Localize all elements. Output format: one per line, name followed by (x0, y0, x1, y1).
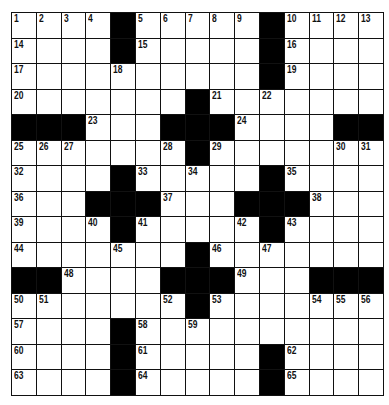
grid-cell[interactable] (111, 294, 135, 319)
grid-cell[interactable] (62, 319, 86, 344)
grid-cell[interactable]: 5 (136, 13, 160, 38)
grid-cell[interactable] (210, 64, 234, 89)
grid-cell[interactable] (111, 141, 135, 166)
grid-cell[interactable] (62, 64, 86, 89)
grid-cell[interactable]: 38 (310, 192, 334, 217)
grid-cell[interactable]: 23 (86, 115, 110, 140)
grid-cell[interactable] (235, 345, 259, 370)
grid-cell[interactable] (285, 141, 309, 166)
grid-cell[interactable]: 53 (210, 294, 234, 319)
grid-cell[interactable]: 48 (62, 268, 86, 293)
grid-cell[interactable]: 12 (334, 13, 358, 38)
grid-cell[interactable] (37, 319, 61, 344)
grid-cell[interactable]: 26 (37, 141, 61, 166)
grid-cell[interactable] (310, 217, 334, 242)
grid-cell[interactable] (86, 90, 110, 115)
grid-cell[interactable] (161, 217, 185, 242)
grid-cell[interactable]: 60 (12, 345, 36, 370)
grid-cell[interactable] (186, 64, 210, 89)
grid-cell[interactable] (161, 370, 185, 395)
grid-cell[interactable] (235, 294, 259, 319)
grid-cell[interactable]: 30 (334, 141, 358, 166)
grid-cell[interactable]: 9 (235, 13, 259, 38)
grid-cell[interactable] (210, 345, 234, 370)
grid-cell[interactable] (260, 141, 284, 166)
grid-cell[interactable]: 28 (161, 141, 185, 166)
grid-cell[interactable] (210, 39, 234, 64)
grid-cell[interactable] (186, 345, 210, 370)
grid-cell[interactable] (62, 370, 86, 395)
grid-cell[interactable] (285, 243, 309, 268)
grid-cell[interactable]: 15 (136, 39, 160, 64)
grid-cell[interactable]: 47 (260, 243, 284, 268)
grid-cell[interactable] (86, 64, 110, 89)
grid-cell[interactable] (260, 115, 284, 140)
grid-cell[interactable] (161, 64, 185, 89)
grid-cell[interactable] (210, 319, 234, 344)
grid-cell[interactable] (186, 39, 210, 64)
grid-cell[interactable] (359, 192, 383, 217)
grid-cell[interactable] (86, 294, 110, 319)
grid-cell[interactable] (310, 166, 334, 191)
grid-cell[interactable]: 58 (136, 319, 160, 344)
grid-cell[interactable] (86, 319, 110, 344)
grid-cell[interactable] (285, 319, 309, 344)
grid-cell[interactable] (285, 115, 309, 140)
grid-cell[interactable] (37, 90, 61, 115)
grid-cell[interactable] (86, 268, 110, 293)
grid-cell[interactable]: 54 (310, 294, 334, 319)
grid-cell[interactable]: 61 (136, 345, 160, 370)
grid-cell[interactable] (136, 243, 160, 268)
grid-cell[interactable]: 6 (161, 13, 185, 38)
grid-cell[interactable] (235, 370, 259, 395)
grid-cell[interactable] (37, 370, 61, 395)
grid-cell[interactable] (235, 39, 259, 64)
grid-cell[interactable] (186, 217, 210, 242)
grid-cell[interactable] (210, 370, 234, 395)
grid-cell[interactable] (62, 192, 86, 217)
grid-cell[interactable] (310, 90, 334, 115)
grid-cell[interactable]: 20 (12, 90, 36, 115)
grid-cell[interactable]: 33 (136, 166, 160, 191)
grid-cell[interactable]: 63 (12, 370, 36, 395)
grid-cell[interactable]: 35 (285, 166, 309, 191)
grid-cell[interactable] (136, 268, 160, 293)
grid-cell[interactable] (310, 319, 334, 344)
grid-cell[interactable] (235, 141, 259, 166)
grid-cell[interactable] (359, 345, 383, 370)
grid-cell[interactable] (359, 217, 383, 242)
grid-cell[interactable] (334, 217, 358, 242)
grid-cell[interactable]: 19 (285, 64, 309, 89)
grid-cell[interactable]: 7 (186, 13, 210, 38)
grid-cell[interactable]: 46 (210, 243, 234, 268)
grid-cell[interactable] (161, 319, 185, 344)
grid-cell[interactable] (310, 345, 334, 370)
grid-cell[interactable] (136, 90, 160, 115)
grid-cell[interactable] (334, 243, 358, 268)
grid-cell[interactable] (235, 90, 259, 115)
grid-cell[interactable] (285, 90, 309, 115)
grid-cell[interactable]: 62 (285, 345, 309, 370)
grid-cell[interactable] (111, 268, 135, 293)
grid-cell[interactable]: 8 (210, 13, 234, 38)
grid-cell[interactable] (37, 243, 61, 268)
grid-cell[interactable] (334, 319, 358, 344)
grid-cell[interactable] (260, 319, 284, 344)
grid-cell[interactable] (334, 90, 358, 115)
grid-cell[interactable] (359, 243, 383, 268)
grid-cell[interactable]: 2 (37, 13, 61, 38)
grid-cell[interactable]: 59 (186, 319, 210, 344)
grid-cell[interactable]: 44 (12, 243, 36, 268)
grid-cell[interactable]: 51 (37, 294, 61, 319)
grid-cell[interactable] (310, 141, 334, 166)
grid-cell[interactable] (235, 319, 259, 344)
grid-cell[interactable]: 14 (12, 39, 36, 64)
grid-cell[interactable]: 43 (285, 217, 309, 242)
grid-cell[interactable] (161, 243, 185, 268)
grid-cell[interactable]: 22 (260, 90, 284, 115)
grid-cell[interactable]: 4 (86, 13, 110, 38)
grid-cell[interactable] (62, 166, 86, 191)
grid-cell[interactable] (210, 166, 234, 191)
grid-cell[interactable] (62, 90, 86, 115)
grid-cell[interactable] (260, 294, 284, 319)
